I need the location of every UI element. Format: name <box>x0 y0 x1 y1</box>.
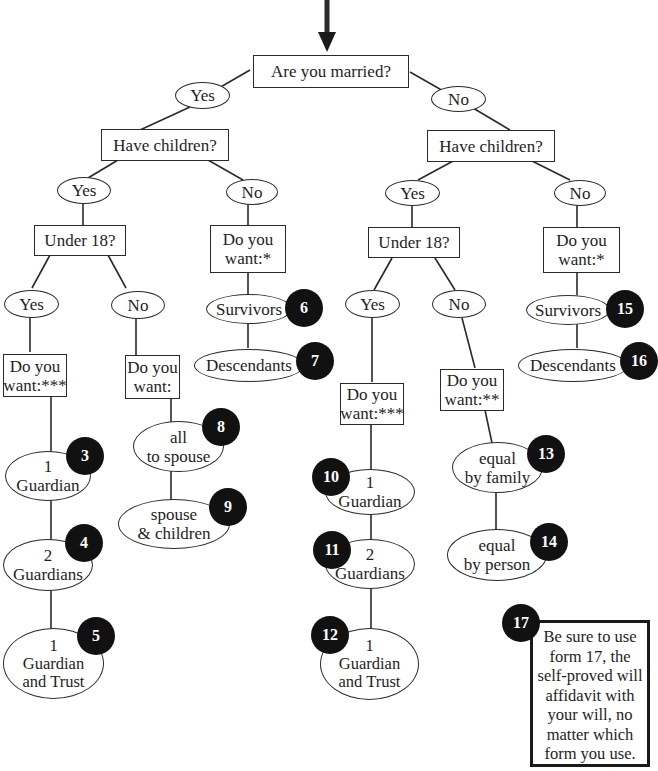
form-13-badge: 13 <box>527 435 565 473</box>
married-under18-box: Under 18? <box>34 225 126 256</box>
married-children-yes-oval: Yes <box>57 177 111 204</box>
single-descendants-oval: Descendants <box>518 349 628 382</box>
married-children-no-oval: No <box>226 179 278 205</box>
married-under18-no-oval: No <box>111 291 165 319</box>
form-8-badge: 8 <box>202 408 240 446</box>
single-want-3star-box: Do you want:*** <box>340 383 404 425</box>
single-under18-box: Under 18? <box>368 227 460 258</box>
form-7-badge: 7 <box>296 342 334 380</box>
single-children-yes-oval: Yes <box>385 180 440 206</box>
married-question-box: Are you married? <box>253 55 409 88</box>
single-under18-no-oval: No <box>432 290 486 318</box>
form-4-badge: 4 <box>65 524 103 562</box>
married-have-children-box: Have children? <box>101 129 229 161</box>
single-want-2star-box: Do you want:** <box>440 369 504 411</box>
form-9-badge: 9 <box>209 488 247 526</box>
single-have-children-box: Have children? <box>427 130 555 162</box>
single-children-no-oval: No <box>554 180 606 206</box>
married-survivors-oval: Survivors <box>206 294 292 324</box>
form-11-badge: 11 <box>313 531 351 569</box>
single-under18-yes-oval: Yes <box>345 290 400 318</box>
married-descendants-oval: Descendants <box>194 349 304 382</box>
married-no-oval: No <box>431 86 486 112</box>
married-want-star-box: Do you want:* <box>210 225 286 273</box>
form-6-badge: 6 <box>285 289 323 327</box>
form-3-badge: 3 <box>66 437 104 475</box>
affidavit-note-box: Be sure to use form 17, the self-proved … <box>530 620 650 767</box>
form-14-badge: 14 <box>530 523 568 561</box>
form-15-badge: 15 <box>606 290 644 328</box>
married-yes-oval: Yes <box>175 82 230 109</box>
married-want-3star-box: Do you want:*** <box>3 354 67 397</box>
form-16-badge: 16 <box>620 342 658 380</box>
form-5-badge: 5 <box>77 617 115 655</box>
form-17-badge: 17 <box>502 604 540 642</box>
form-10-badge: 10 <box>312 458 350 496</box>
married-want-plain-box: Do you want: <box>125 355 180 399</box>
single-survivors-oval: Survivors <box>526 295 610 325</box>
single-want-star-box: Do you want:* <box>543 227 620 273</box>
form-12-badge: 12 <box>311 616 349 654</box>
married-under18-yes-oval: Yes <box>4 290 59 318</box>
